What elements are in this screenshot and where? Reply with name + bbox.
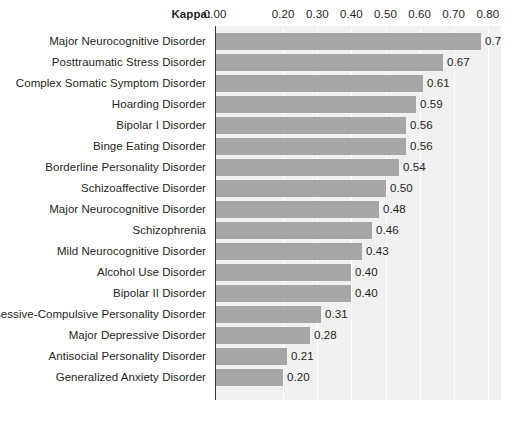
bar — [215, 96, 416, 113]
bar-row: 0.48 — [215, 199, 501, 220]
bar-row: 0.28 — [215, 325, 501, 346]
bar-value-label: 0.50 — [386, 180, 413, 197]
category-label: Posttraumatic Stress Disorder — [52, 52, 211, 73]
category-label: Major Depressive Disorder — [69, 325, 211, 346]
bar-value-label: 0.46 — [372, 222, 399, 239]
bar — [215, 306, 321, 323]
bar-row: 0.46 — [215, 220, 501, 241]
bar-row: 0.40 — [215, 283, 501, 304]
category-label: Schizoaffective Disorder — [81, 178, 211, 199]
x-tick-label: 0.60 — [408, 8, 431, 20]
category-label: Mild Neurocognitive Disorder — [57, 241, 211, 262]
bar-value-label: 0.54 — [399, 159, 426, 176]
bar-value-label: 0.56 — [406, 138, 433, 155]
bar-row: 0.50 — [215, 178, 501, 199]
x-tick-label: 0.00 — [204, 8, 227, 20]
category-label: Binge Eating Disorder — [93, 136, 211, 157]
bar-row: 0.78 — [215, 31, 501, 52]
bar — [215, 285, 351, 302]
plot-area: 0.780.670.610.590.560.560.540.500.480.46… — [215, 26, 501, 400]
bar — [215, 369, 283, 386]
bar — [215, 264, 351, 281]
bar-row: 0.40 — [215, 262, 501, 283]
bar-row: 0.67 — [215, 52, 501, 73]
category-label: Complex Somatic Symptom Disorder — [16, 73, 211, 94]
bar — [215, 54, 443, 71]
bar — [215, 159, 399, 176]
x-tick-label: 0.70 — [442, 8, 465, 20]
bar-value-label: 0.67 — [443, 54, 470, 71]
category-label: Hoarding Disorder — [112, 94, 211, 115]
bar-row: 0.61 — [215, 73, 501, 94]
bar-value-label: 0.20 — [283, 369, 310, 386]
category-label: Major Neurocognitive Disorder — [49, 31, 211, 52]
x-tick-label: 0.50 — [374, 8, 397, 20]
category-label: Schizophrenia — [132, 220, 211, 241]
bar-value-label: 0.28 — [310, 327, 337, 344]
category-label: Obsessive-Compulsive Personality Disorde… — [0, 304, 211, 325]
bar-row: 0.20 — [215, 367, 501, 388]
axis-header: Kappa: 0.000.200.300.400.500.600.700.80 — [0, 8, 518, 24]
bar — [215, 222, 372, 239]
bar-value-label: 0.78 — [481, 33, 501, 50]
category-label: Bipolar I Disorder — [116, 115, 211, 136]
x-tick-label: 0.40 — [340, 8, 363, 20]
bar — [215, 180, 386, 197]
category-label: Bipolar II Disorder — [113, 283, 211, 304]
bar-value-label: 0.40 — [351, 264, 378, 281]
category-label: Antisocial Personality Disorder — [48, 346, 211, 367]
bar — [215, 348, 287, 365]
category-axis-labels: Major Neurocognitive DisorderPosttraumat… — [0, 26, 211, 400]
bar-value-label: 0.43 — [362, 243, 389, 260]
bar-row: 0.21 — [215, 346, 501, 367]
bar-row: 0.43 — [215, 241, 501, 262]
bar — [215, 327, 310, 344]
bar-value-label: 0.31 — [321, 306, 348, 323]
bar-row: 0.56 — [215, 136, 501, 157]
bar-value-label: 0.61 — [423, 75, 450, 92]
zero-axis-line — [215, 26, 216, 400]
category-label: Alcohol Use Disorder — [97, 262, 211, 283]
kappa-axis-title-wrap: Kappa: — [0, 8, 211, 24]
bar-value-label: 0.40 — [351, 285, 378, 302]
bar-value-label: 0.48 — [379, 201, 406, 218]
bar — [215, 75, 423, 92]
bar-value-label: 0.56 — [406, 117, 433, 134]
kappa-bar-chart: Kappa: 0.000.200.300.400.500.600.700.80 … — [0, 0, 518, 423]
bar-value-label: 0.59 — [416, 96, 443, 113]
bar-row: 0.56 — [215, 115, 501, 136]
bar — [215, 243, 362, 260]
bar-row: 0.54 — [215, 157, 501, 178]
bar — [215, 117, 406, 134]
bar — [215, 138, 406, 155]
bar-row: 0.59 — [215, 94, 501, 115]
x-tick-label: 0.30 — [306, 8, 329, 20]
category-label: Generalized Anxiety Disorder — [56, 367, 211, 388]
bar-row: 0.31 — [215, 304, 501, 325]
bar — [215, 33, 481, 50]
category-label: Major Neurocognitive Disorder — [49, 199, 211, 220]
category-label: Borderline Personality Disorder — [45, 157, 211, 178]
bar — [215, 201, 379, 218]
x-tick-label: 0.80 — [476, 8, 499, 20]
x-tick-label: 0.20 — [272, 8, 295, 20]
bar-value-label: 0.21 — [287, 348, 314, 365]
